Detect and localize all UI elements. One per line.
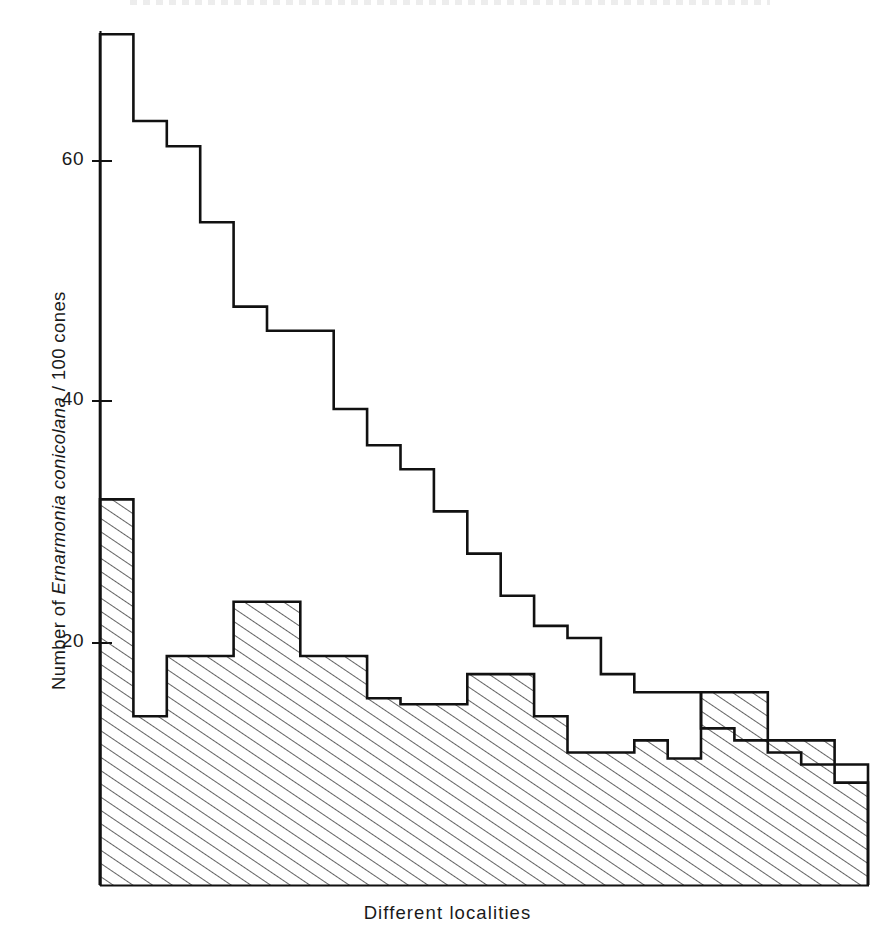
x-axis-label: Different localities (0, 902, 895, 924)
figure-container: Number of Ernarmonia conicolana / 100 co… (0, 0, 895, 944)
chart-plot-area (0, 0, 895, 944)
